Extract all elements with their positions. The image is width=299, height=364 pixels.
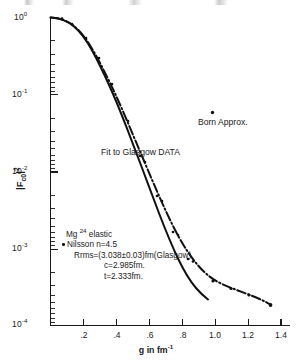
y-tick-label-1e-4: 10-4 (12, 319, 28, 329)
info-line-nucleus: Mg 24 elastic (62, 230, 191, 240)
curve-label-born-approx: Born Approx. (198, 117, 248, 127)
curve-label-glasgow-fit: Fit to Glasgow DATA (101, 147, 180, 157)
x-tick-label-0-8: .8 (172, 330, 194, 340)
y-tick-label-1e-3: 10-3 (12, 243, 28, 253)
info-annotation-block: Mg 24 elastic Nilsson n=4.5 Rrms=(3.038±… (62, 230, 191, 282)
x-tick-label-0-4: .4 (106, 330, 128, 340)
x-tick-label-0-6: .6 (139, 330, 161, 340)
y-axis-minor-ticks (51, 41, 56, 323)
figure-root: 100 10-1 10-2 10-3 10-4 .2 .4 .6 .8 1.0 … (0, 0, 299, 364)
x-tick-label-1-4: 1.4 (270, 330, 292, 340)
legend-marker-dot (62, 243, 65, 246)
y-axis-title: |Fc0|2 (14, 167, 25, 190)
x-axis-title: g in fm-1 (116, 345, 196, 355)
info-line-nilsson: Nilsson n=4.5 (62, 240, 191, 250)
plot-canvas (0, 0, 299, 364)
x-tick-label-0-2: .2 (73, 330, 95, 340)
x-tick-label-1-0: 1.0 (204, 330, 226, 340)
y-tick-label-1e0: 100 (14, 12, 28, 22)
x-axis-ticks (83, 319, 281, 326)
x-tick-label-1-2: 1.2 (237, 330, 259, 340)
info-nilsson-text: Nilsson n=4.5 (67, 240, 117, 249)
y-tick-label-1e-1: 10-1 (12, 89, 28, 99)
info-line-t: t=2.333fm. (62, 272, 191, 282)
info-line-c: c=2.985fm. (62, 261, 191, 271)
info-line-rrms: Rrms=(3.038±0.03)fm(Glasgow) (62, 251, 191, 261)
